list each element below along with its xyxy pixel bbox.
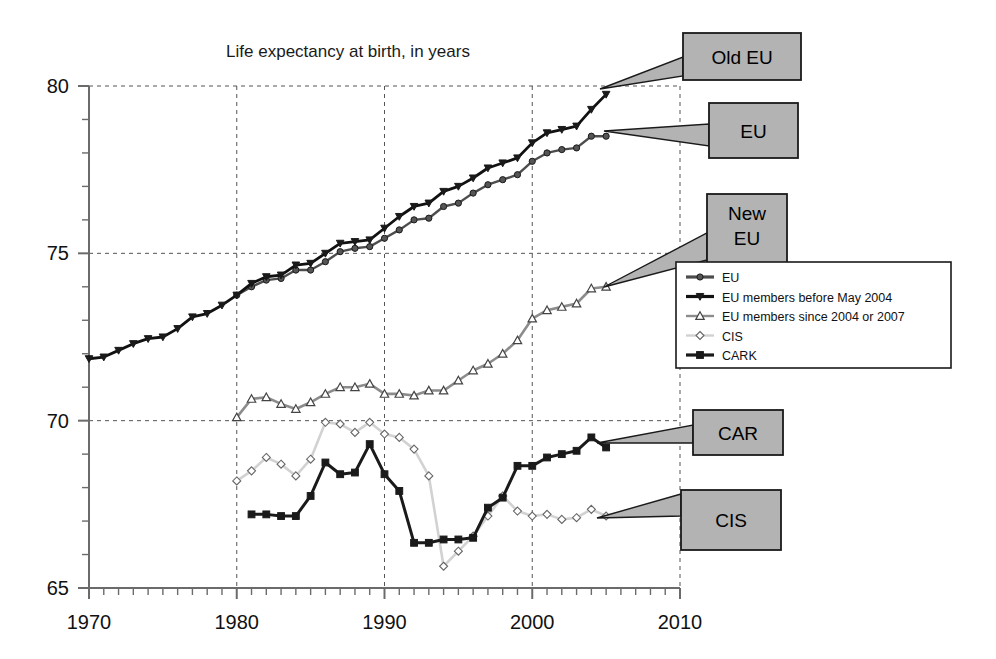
callout-label: EU (740, 121, 766, 142)
series-line (237, 422, 606, 566)
data-point-square (603, 444, 610, 451)
x-tick-label: 1980 (215, 611, 260, 633)
life-expectancy-line-chart: Life expectancy at birth, in years657075… (0, 0, 996, 659)
callout-pointer (604, 124, 709, 146)
callout-pointer (597, 494, 681, 518)
x-tick-label: 1990 (362, 611, 407, 633)
x-tick-label: 1970 (67, 611, 112, 633)
callout-label: CAR (718, 423, 758, 444)
data-point-circle (411, 217, 417, 223)
series-line (252, 437, 607, 542)
data-point-circle (337, 249, 343, 255)
data-point-circle (381, 235, 387, 241)
data-point-square (425, 539, 432, 546)
series-eu-members-since-2004-or-2007 (233, 283, 611, 421)
chart-page: Life expectancy at birth, in years657075… (0, 0, 996, 659)
data-point-square (381, 471, 388, 478)
data-point-circle (485, 182, 491, 188)
data-point-square (544, 454, 551, 461)
data-point-square (514, 462, 521, 469)
callout-pointer (597, 425, 693, 443)
data-point-circle (455, 200, 461, 206)
legend-item-label: CARK (722, 349, 757, 363)
data-point-circle (697, 274, 703, 280)
data-point-square (337, 471, 344, 478)
series-cark (248, 434, 609, 546)
data-point-square (248, 511, 255, 518)
data-point-circle (441, 203, 447, 209)
data-point-circle (322, 259, 328, 265)
data-point-square (396, 488, 403, 495)
data-point-circle (529, 158, 535, 164)
legend: EUEU members before May 2004EU members s… (676, 262, 951, 368)
callout-old-eu[interactable]: Old EU (600, 33, 801, 89)
callout-cis[interactable]: CIS (597, 490, 781, 550)
data-point-circle (470, 190, 476, 196)
y-tick-label: 65 (47, 577, 69, 599)
data-point-square (529, 462, 536, 469)
data-point-diamond (558, 515, 566, 523)
series-line (237, 136, 606, 295)
callout-label: Old EU (711, 47, 772, 68)
data-point-diamond (321, 418, 329, 426)
data-point-circle (396, 227, 402, 233)
callout-car[interactable]: CAR (597, 410, 783, 455)
data-point-circle (603, 133, 609, 139)
callout-label: CIS (715, 510, 747, 531)
data-point-square (470, 534, 477, 541)
data-point-square (278, 513, 285, 520)
data-point-circle (544, 150, 550, 156)
data-point-square (455, 536, 462, 543)
data-point-square (292, 513, 299, 520)
data-point-circle (500, 177, 506, 183)
data-point-circle (573, 145, 579, 151)
data-point-square (499, 494, 506, 501)
callout-label: New (728, 203, 766, 224)
data-point-square (440, 536, 447, 543)
data-point-square (573, 447, 580, 454)
data-point-square (697, 352, 704, 359)
series-line (237, 287, 606, 418)
data-point-circle (426, 215, 432, 221)
y-tick-label: 80 (47, 75, 69, 97)
callout-label: EU (734, 228, 760, 249)
legend-item-label: EU (722, 271, 739, 285)
data-point-square (352, 469, 359, 476)
axes: 6570758019701980199020002010 (47, 75, 703, 633)
x-tick-label: 2000 (510, 611, 555, 633)
data-point-circle (514, 172, 520, 178)
data-point-square (558, 451, 565, 458)
data-point-square (263, 511, 270, 518)
data-point-square (411, 539, 418, 546)
data-point-diamond (543, 510, 551, 518)
x-tick-label: 2010 (658, 611, 703, 633)
chart-title: Life expectancy at birth, in years (226, 42, 470, 61)
data-point-square (588, 434, 595, 441)
series-cis (233, 418, 610, 570)
data-point-diamond (528, 512, 536, 520)
y-tick-label: 75 (47, 242, 69, 264)
data-point-square (366, 441, 373, 448)
legend-item-label: EU members before May 2004 (722, 291, 892, 305)
page-edge-scan-artifact (934, 22, 994, 322)
callout-pointer (600, 57, 683, 89)
legend-item-label: CIS (722, 330, 743, 344)
data-point-circle (559, 146, 565, 152)
y-tick-label: 70 (47, 410, 69, 432)
legend-item-label: EU members since 2004 or 2007 (722, 310, 905, 324)
callout-eu[interactable]: EU (604, 103, 798, 158)
data-point-square (307, 493, 314, 500)
data-point-square (485, 504, 492, 511)
data-point-square (322, 459, 329, 466)
data-point-circle (588, 133, 594, 139)
series-eu (234, 133, 610, 298)
series-line (89, 94, 606, 358)
